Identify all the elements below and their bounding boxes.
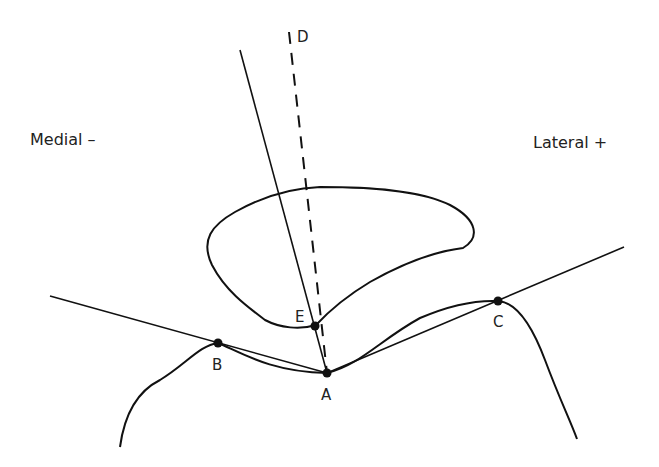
point-e-label: E xyxy=(295,308,304,326)
point-c-marker xyxy=(494,297,503,306)
point-b-marker xyxy=(214,339,223,348)
medial-label: Medial – xyxy=(30,130,96,149)
blob-outline xyxy=(207,187,474,328)
bone-contour-left xyxy=(120,343,327,447)
point-e-marker xyxy=(311,322,320,331)
bone-contour-right xyxy=(327,301,577,439)
tangent-line-ba xyxy=(50,296,327,373)
point-b-label: B xyxy=(212,356,222,374)
tangent-line-ac xyxy=(327,247,624,373)
lateral-label: Lateral + xyxy=(533,133,607,152)
point-a-marker xyxy=(323,369,332,378)
diagram-canvas: Medial – Lateral + A B C D E xyxy=(0,0,659,467)
point-a-label: A xyxy=(321,386,332,404)
point-c-label: C xyxy=(493,313,503,331)
point-d-label: D xyxy=(297,28,309,46)
